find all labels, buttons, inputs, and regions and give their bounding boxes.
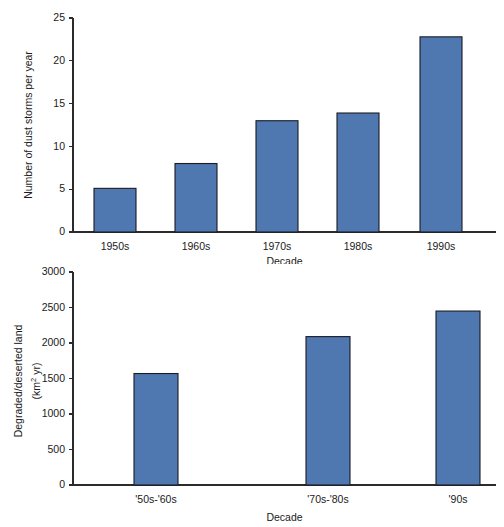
- x-axis-category-label: '50s-'60s: [135, 493, 176, 505]
- y-axis-tick-label: 0: [59, 225, 65, 237]
- x-axis-category-label: '70s-'80s: [307, 493, 348, 505]
- y-axis-tick-label: 1500: [42, 372, 66, 384]
- chart-panel-dust-storms: 05101520251950s1960s1970s1980s1990sDecad…: [0, 0, 504, 264]
- y-axis-tick-label: 2500: [42, 301, 66, 313]
- degraded-land-bar-chart: 050010001500200025003000'50s-'60s'70s-'8…: [0, 263, 504, 527]
- chart-panel-degraded-land: 050010001500200025003000'50s-'60s'70s-'8…: [0, 263, 504, 527]
- bar: [175, 164, 217, 232]
- x-axis-category-label: 1980s: [344, 240, 373, 252]
- y-axis-tick-label: 3000: [42, 265, 66, 277]
- y-axis-tick-label: 20: [53, 54, 65, 66]
- y-axis-tick-label: 10: [53, 140, 65, 152]
- plot-area: 05101520251950s1960s1970s1980s1990s: [53, 11, 496, 252]
- bar: [256, 121, 298, 232]
- bar: [94, 188, 136, 232]
- bar: [134, 374, 178, 485]
- figure-two-bar-charts: 05101520251950s1960s1970s1980s1990sDecad…: [0, 0, 504, 527]
- x-axis-category-label: 1990s: [427, 240, 456, 252]
- dust-storms-bar-chart: 05101520251950s1960s1970s1980s1990sDecad…: [0, 0, 504, 264]
- x-axis-title: Decade: [266, 511, 302, 523]
- bar: [306, 337, 350, 485]
- y-axis-tick-label: 0: [59, 478, 65, 490]
- x-axis-category-label: 1970s: [263, 240, 292, 252]
- y-axis-tick-label: 15: [53, 97, 65, 109]
- y-axis-tick-label: 5: [59, 182, 65, 194]
- y-axis-tick-label: 2000: [42, 336, 66, 348]
- y-axis-tick-label: 25: [53, 11, 65, 23]
- x-axis-category-label: 1950s: [101, 240, 130, 252]
- bar: [436, 311, 480, 485]
- y-axis-title: Number of dust storms per year: [22, 51, 34, 199]
- bar: [420, 37, 462, 232]
- x-axis-category-label: '90s: [449, 493, 468, 505]
- y-axis-units-label: (km2 yr): [29, 363, 43, 400]
- plot-area: 050010001500200025003000'50s-'60s'70s-'8…: [42, 265, 496, 505]
- y-axis-tick-label: 1000: [42, 407, 66, 419]
- x-axis-category-label: 1960s: [182, 240, 211, 252]
- bar: [337, 113, 379, 232]
- y-axis-tick-label: 500: [47, 443, 65, 455]
- y-axis-title: Degraded/deserted land: [12, 325, 24, 438]
